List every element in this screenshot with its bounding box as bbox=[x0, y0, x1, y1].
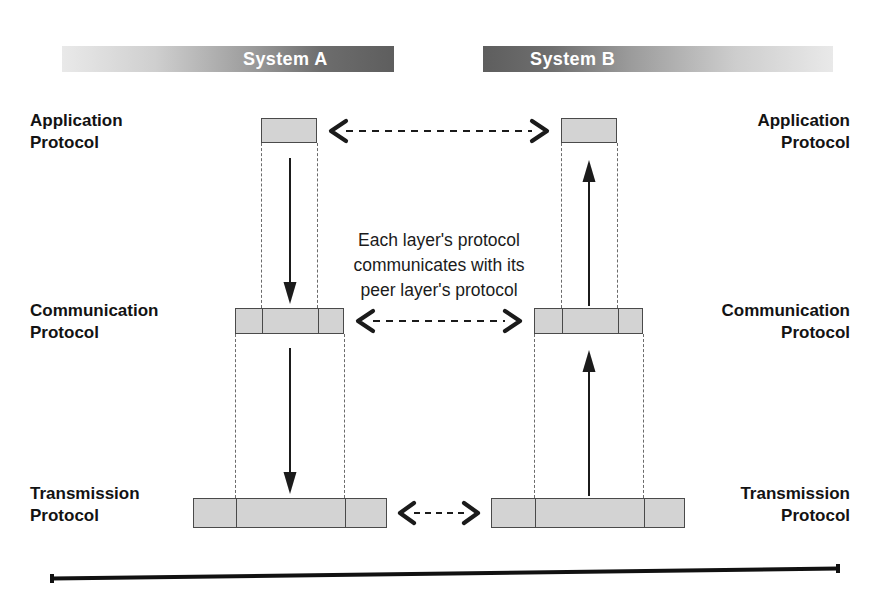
guide-b-app-right bbox=[617, 143, 618, 308]
system-b-communication-label: Communication Protocol bbox=[722, 300, 850, 344]
system-b-title: System B bbox=[530, 48, 615, 70]
system-b-transmission-box bbox=[491, 498, 685, 528]
system-b-flow-arrow-trans-to-comm bbox=[574, 348, 604, 496]
box-divider bbox=[318, 309, 319, 333]
guide-a-comm-left bbox=[235, 334, 236, 498]
peer-link-application bbox=[320, 118, 558, 144]
system-a-communication-label: Communication Protocol bbox=[30, 300, 158, 344]
system-a-application-label: Application Protocol bbox=[30, 110, 123, 154]
system-b-application-box bbox=[561, 118, 617, 143]
system-a-application-box bbox=[261, 118, 317, 143]
guide-a-app-right bbox=[317, 143, 318, 308]
box-divider bbox=[236, 499, 237, 527]
box-divider bbox=[262, 309, 263, 333]
peer-link-transmission bbox=[390, 500, 488, 526]
system-a-communication-box bbox=[235, 308, 344, 334]
system-a-transmission-box bbox=[193, 498, 387, 528]
system-b-transmission-label: Transmission Protocol bbox=[740, 483, 850, 527]
guide-a-comm-right bbox=[344, 334, 345, 498]
system-b-flow-arrow-comm-to-app bbox=[574, 158, 604, 306]
box-divider bbox=[644, 499, 645, 527]
box-divider bbox=[562, 309, 563, 333]
guide-b-comm-right bbox=[643, 334, 644, 498]
transmission-medium-line bbox=[0, 552, 878, 588]
system-a-banner bbox=[62, 46, 394, 72]
system-b-communication-box bbox=[534, 308, 643, 334]
diagram-canvas: System A System B Application Protocol C… bbox=[0, 0, 878, 592]
guide-a-app-left bbox=[261, 143, 262, 308]
peer-link-communication bbox=[347, 308, 531, 334]
guide-b-app-left bbox=[561, 143, 562, 308]
guide-b-comm-left bbox=[534, 334, 535, 498]
system-b-application-label: Application Protocol bbox=[757, 110, 850, 154]
box-divider bbox=[618, 309, 619, 333]
system-a-title: System A bbox=[243, 48, 328, 70]
system-a-flow-arrow-comm-to-trans bbox=[275, 348, 305, 496]
peer-communication-annotation: Each layer's protocol communicates with … bbox=[322, 228, 556, 303]
box-divider bbox=[345, 499, 346, 527]
box-divider bbox=[535, 499, 536, 527]
system-a-transmission-label: Transmission Protocol bbox=[30, 483, 140, 527]
system-a-flow-arrow-app-to-comm bbox=[275, 158, 305, 306]
